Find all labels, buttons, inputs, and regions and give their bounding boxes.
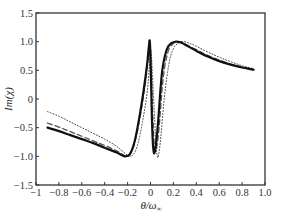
x-tick-label: −0.6 [72,187,91,198]
x-tick-label: 0.8 [236,187,249,198]
x-tick-label: 0.4 [190,187,204,198]
x-tick-label: −0.8 [49,187,68,198]
y-tick-label: −0.5 [14,122,33,133]
x-tick-label: 0.2 [167,187,180,198]
y-axis-ticks: 1.51.00.50−0.5−1.0−1.5 [14,8,39,191]
y-axis-label: Im(χ) [2,87,15,112]
x-tick-label: −0.2 [118,187,137,198]
x-axis-label: θ/ω∞ [140,199,161,213]
y-tick-label: 0 [28,94,33,105]
x-axis-label-sub: ∞ [157,205,162,213]
x-tick-label: 1.0 [258,187,271,198]
x-tick-label: −0.4 [95,187,115,198]
y-tick-label: 1.0 [20,36,33,47]
y-tick-label: −1.0 [14,151,33,162]
y-tick-label: −1.5 [14,180,33,191]
x-tick-label: 0.6 [213,187,226,198]
x-axis-label-main: θ/ω [140,199,156,211]
x-tick-label: 0 [148,187,153,198]
chart: −1−0.8−0.6−0.4−0.200.20.40.60.81.0 1.51.… [0,0,283,213]
y-tick-label: 0.5 [20,65,33,76]
y-tick-label: 1.5 [20,8,33,19]
